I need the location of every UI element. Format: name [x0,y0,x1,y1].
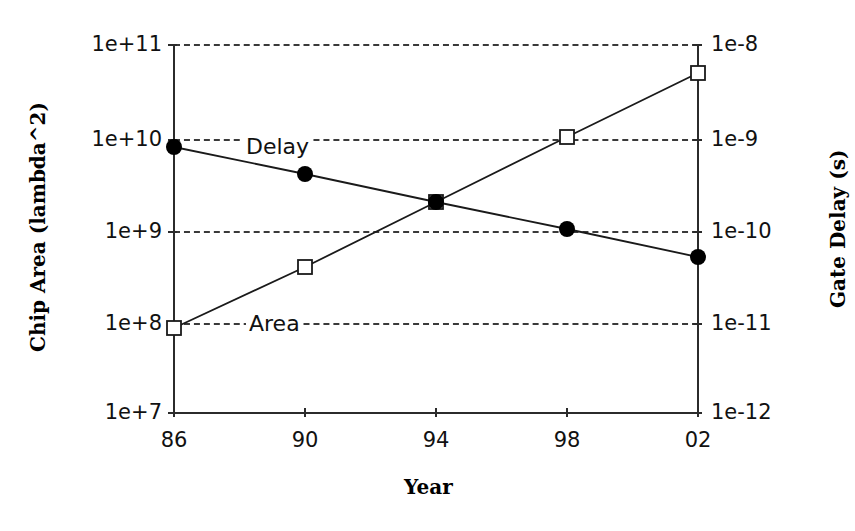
marker-area-90 [298,260,312,274]
y-tick-left-1e10 [168,139,177,141]
y-tick-label-left-2: 1e+9 [38,219,162,243]
series-line-delay [174,147,698,257]
series-annotation-area: Area [246,311,303,336]
y-tick-label-right-1: 1e-9 [711,127,821,151]
y-tick-right-1e-9 [693,139,702,141]
y-axis-right-line [697,44,699,414]
y-axis-left-title: Chip Area (lambda^2) [26,102,50,352]
y-axis-right-title: Gate Delay (s) [826,150,850,308]
x-axis-title: Year [404,475,453,499]
y-tick-right-1e-8 [693,44,702,46]
y-tick-left-1e9 [168,231,177,233]
gridline-1e9 [174,231,698,233]
x-tick-label-0: 86 [144,428,204,452]
y-tick-left-1e11 [168,44,177,46]
series-annotation-delay: Delay [243,134,312,159]
y-tick-right-1e-10 [693,231,702,233]
y-tick-label-left-3: 1e+8 [38,311,162,335]
x-tick-label-1: 90 [275,428,335,452]
x-tick-94 [435,408,437,417]
chart-figure: 1e+11 1e+10 1e+9 1e+8 1e+7 1e-8 1e-9 1e-… [0,0,855,531]
y-tick-left-1e8 [168,323,177,325]
y-axis-left-line [173,44,175,414]
y-tick-label-right-3: 1e-11 [711,311,821,335]
y-tick-label-right-4: 1e-12 [711,400,821,424]
x-tick-98 [566,408,568,417]
x-tick-02 [697,408,699,417]
y-tick-label-right-2: 1e-10 [711,219,821,243]
marker-area-94 [429,195,443,209]
y-tick-label-right-0: 1e-8 [711,32,821,56]
marker-area-98 [560,130,574,144]
y-tick-right-1e-11 [693,323,702,325]
marker-delay-98 [559,221,575,237]
marker-delay-90 [297,166,313,182]
series-line-area [174,73,698,328]
marker-delay-94 [428,194,444,210]
y-tick-label-left-1: 1e+10 [38,127,162,151]
x-tick-label-2: 94 [406,428,466,452]
gridline-1e11 [174,44,698,46]
x-tick-86 [173,408,175,417]
y-tick-label-left-4: 1e+7 [38,400,162,424]
x-tick-label-4: 02 [668,428,728,452]
y-tick-label-left-0: 1e+11 [38,32,162,56]
x-tick-90 [304,408,306,417]
x-tick-label-3: 98 [537,428,597,452]
